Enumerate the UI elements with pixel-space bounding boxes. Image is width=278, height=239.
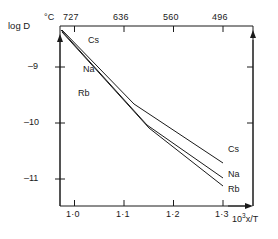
top-tick-label-636: 636 [113,13,129,22]
x-axis-title: 103x/T [232,213,258,224]
y-tick-label-minus11: –11 [24,174,38,183]
y-tick-label-minus9: –9 [28,62,38,71]
right-axis-arrow-head [250,30,256,38]
x-tick-label-1-1: 1·1 [116,210,130,219]
x-axis-title-text: 103x/T [232,214,258,224]
y-tick-label-minus10: –10 [24,118,39,127]
chart-figure: °C 727 636 560 496 log D –9 –10 –11 1·0 … [0,0,278,239]
y-axis-arrow-head [57,34,63,42]
chart-canvas [0,0,278,239]
curve-label-rb-left: Rb [78,89,90,98]
x-axis-arrow-head [245,203,253,209]
top-tick-label-560: 560 [163,13,179,22]
curve-label-cs-left: Cs [88,36,99,45]
curve-label-rb-right: Rb [228,185,240,194]
curve-label-cs-right: Cs [228,145,239,154]
curve-na [61,30,223,178]
curve-label-na-left: Na [83,65,95,74]
top-tick-label-727: 727 [63,13,79,22]
y-axis-title: log D [8,21,30,31]
x-tick-label-1-3: 1·3 [215,210,229,219]
curve-label-na-right: Na [228,170,240,179]
x-tick-label-1-2: 1·2 [166,210,180,219]
top-axis-unit-label: °C [44,13,55,22]
top-tick-label-496: 496 [212,13,228,22]
x-tick-label-1-0: 1·0 [66,210,80,219]
